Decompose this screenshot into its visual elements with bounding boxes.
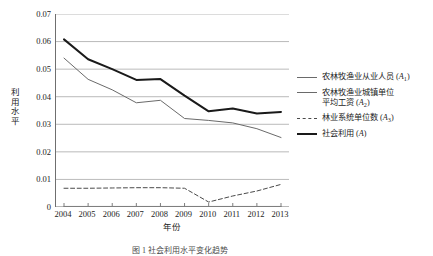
legend-item-label: 农林牧渔业城镇单位平均工资 (A2)	[322, 88, 433, 109]
legend-label-subscript: 2	[364, 101, 367, 108]
legend-line-swatch	[297, 88, 317, 98]
legend-line-glyph	[297, 133, 317, 135]
legend-item-a1[interactable]: 农林牧渔业从业人员 (A1)	[297, 72, 433, 83]
legend-line-swatch	[297, 129, 317, 139]
figure-caption: 图 1 社会利用水平变化趋势	[132, 246, 433, 256]
legend-line-swatch	[297, 113, 317, 123]
y-axis-tick-label: 0.05	[23, 65, 51, 74]
plot-svg	[56, 14, 289, 207]
legend: 农林牧渔业从业人员 (A1)农林牧渔业城镇单位平均工资 (A2)林业系统单位数 …	[297, 72, 433, 144]
y-axis-tick-label: 0.04	[23, 93, 51, 102]
legend-item-a[interactable]: 社会利用 (A)	[297, 129, 433, 140]
legend-label-line-2: 平均工资 (A2)	[322, 98, 433, 109]
x-axis-tick-labels: 2004200520062007200820092010201120122013	[55, 209, 288, 223]
legend-item-a3[interactable]: 林业系统单位数 (A3)	[297, 113, 433, 124]
x-axis-title: 年份	[55, 222, 288, 233]
y-axis-tick-label: 0.02	[23, 148, 51, 157]
y-axis-tick-label: 0.07	[23, 10, 51, 19]
legend-label-line-1: 农林牧渔业城镇单位	[322, 88, 433, 99]
y-axis-tick-label: 0.01	[23, 175, 51, 184]
y-axis-tick-label: 0	[23, 203, 51, 212]
legend-line-swatch	[297, 72, 317, 82]
legend-item-label: 社会利用 (A)	[322, 129, 433, 140]
y-axis-tick-label: 0.06	[23, 37, 51, 46]
series-line-A	[64, 39, 281, 113]
data-series-group	[64, 39, 281, 206]
legend-label-subscript: 1	[404, 75, 407, 82]
legend-item-label: 农林牧渔业从业人员 (A1)	[322, 72, 433, 83]
series-line-A3	[64, 184, 281, 202]
y-axis-tick-labels: 00.010.020.030.040.050.060.07	[20, 0, 51, 256]
legend-line-glyph	[297, 77, 317, 78]
legend-label-subscript: 3	[388, 116, 391, 123]
legend-item-a2[interactable]: 农林牧渔业城镇单位平均工资 (A2)	[297, 88, 433, 109]
y-axis-tick-label: 0.03	[23, 120, 51, 129]
legend-line-glyph	[297, 92, 317, 93]
figure-container: 利用水平 00.010.020.030.040.050.060.07 20042…	[0, 0, 433, 256]
plot-area	[55, 14, 288, 207]
x-axis-tick-label: 2013	[265, 209, 295, 219]
series-line-A1	[64, 58, 281, 137]
gridlines	[56, 14, 289, 207]
legend-item-label: 林业系统单位数 (A3)	[322, 113, 433, 124]
legend-line-glyph	[297, 118, 317, 119]
